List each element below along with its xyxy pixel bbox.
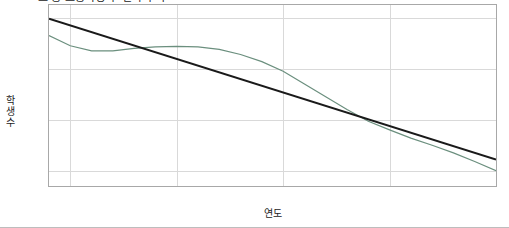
x-tick-mark	[283, 186, 284, 187]
series-layer	[49, 5, 496, 186]
chart-figure: 초·중·고등학생 수 변화 추이 학생수 연도 6e+067e+068e+069…	[0, 0, 509, 228]
x-tick-mark	[177, 186, 178, 187]
x-tick-mark	[70, 186, 71, 187]
y-axis-label: 학생수	[2, 95, 18, 128]
plot-area: 6e+067e+068e+069e+0620002005201020152020	[48, 4, 497, 187]
x-axis-label: 연도	[48, 205, 497, 220]
x-tick-mark	[496, 186, 497, 187]
x-gridline	[496, 5, 497, 186]
series-line	[49, 19, 496, 160]
series-line	[49, 36, 496, 171]
x-tick-mark	[390, 186, 391, 187]
